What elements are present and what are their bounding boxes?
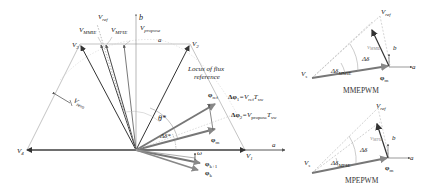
space-vector-diagram: V3 V2 V4 V1 Vref VMMIE VMPIE Vpropose b … <box>0 0 430 187</box>
label-phi-k: φk <box>205 169 212 178</box>
label-v-s: Vs <box>304 159 310 168</box>
label-axis-a: a <box>412 63 416 71</box>
label-v-mmie: VMMIE <box>79 26 96 35</box>
vector-delta-phi2 <box>209 104 213 130</box>
caption-mmepwm: MMEPWM <box>343 86 379 95</box>
label-v-ref: Vref <box>98 13 108 22</box>
label-v-mpie: VMPIE <box>370 136 383 142</box>
main-diagram: V3 V2 V4 V1 Vref VMMIE VMPIE Vpropose b … <box>17 13 285 178</box>
label-phi-ref: φref <box>208 91 218 100</box>
delta-arc <box>172 133 176 150</box>
vector-v-propose <box>124 45 136 150</box>
label-axis-a: a <box>410 154 414 162</box>
helper-line <box>136 116 230 150</box>
vector-v-mmie <box>101 45 136 150</box>
label-phi-m: φm <box>380 74 388 83</box>
label-delta-mmie: ΔδMMIE <box>330 67 351 76</box>
label-locus-1: Locus of flux <box>187 65 225 73</box>
label-v-ref: Vref <box>376 102 386 111</box>
label-omega: ω <box>197 149 202 157</box>
label-delta: Δδ <box>359 146 368 154</box>
label-axis-b: b <box>393 44 397 52</box>
label-axis-a: a <box>272 141 276 149</box>
delta-arc <box>350 44 358 71</box>
label-delta: Δδ <box>361 55 370 63</box>
vector-v3 <box>81 46 136 150</box>
label-a-top: a <box>158 36 162 44</box>
label-v-ref: Vref <box>381 8 391 17</box>
label-v-mmie: VMMIE <box>367 45 381 51</box>
v-zero-dimension <box>55 94 70 103</box>
label-eq1: Δφ1=VrefTsw <box>228 93 264 102</box>
label-eq2: Δφ2=VproposeTsw <box>231 111 277 120</box>
label-locus-2: reference <box>194 73 220 81</box>
label-theta: θ* <box>158 114 166 123</box>
label-delta: Δδ* <box>159 132 171 140</box>
caption-mpepwm: MPEPWM <box>345 176 379 185</box>
label-v-s: Vs <box>301 70 307 79</box>
label-phi-m: φm <box>385 164 393 173</box>
delta-arc <box>349 136 356 164</box>
label-phi-k1: φk+1 <box>205 160 218 169</box>
label-phi-m: φm <box>211 136 219 145</box>
label-axis-b: b <box>139 13 143 22</box>
inset-mmepwm: Vref VMMIE Vs Δδ ΔδMMIE φm a b MMEPWM <box>301 8 416 95</box>
label-delta-mpie: ΔδMPIE <box>330 159 350 168</box>
inset-mpepwm: Vref VMPIE Vs Δδ ΔδMPIE φm a b MPEPWM <box>304 102 414 185</box>
label-v1: V1 <box>246 152 253 161</box>
label-v4: V4 <box>17 147 24 156</box>
label-v-mpie: VMPIE <box>111 26 127 35</box>
label-v-propose: Vpropose <box>140 24 161 33</box>
label-axis-b: b <box>392 134 396 142</box>
label-v-zero: Vzero <box>72 97 88 111</box>
label-v2: V2 <box>192 40 199 49</box>
label-v3: V3 <box>72 41 79 50</box>
